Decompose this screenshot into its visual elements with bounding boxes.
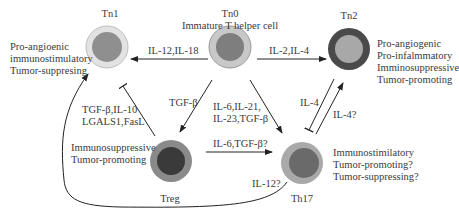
- tn2-label: Tn2: [334, 9, 364, 22]
- th17-label: Th17: [282, 192, 322, 205]
- tn1-trait: Tumor-suppresing: [10, 64, 87, 77]
- th17-trait: Tumor-suppressing?: [333, 170, 419, 183]
- tn0-subtitle: Immature T helper cell: [165, 19, 295, 32]
- edge-label-tn0-tn2: IL-2,IL-4: [269, 44, 309, 57]
- th17-cell-icon: [281, 142, 323, 184]
- edge-label-treg-th17: IL-6,TGF-β?: [213, 137, 268, 150]
- treg-label: Treg: [150, 192, 190, 205]
- edge-label-treg-tn1: LGALS1,FasL: [82, 115, 145, 128]
- treg-cell-icon: [150, 140, 192, 182]
- edge-label-tn0-treg: TGF-β: [169, 96, 198, 109]
- tn0-cell-icon: [209, 26, 251, 68]
- edge-label-tn0-tn1: IL-12,IL-18: [148, 44, 198, 57]
- edge-label-th17-tn1: IL-12?: [252, 177, 281, 190]
- tn2-cell-icon: [328, 28, 370, 70]
- edge-label-tn2-th17-inhibit: IL-4: [300, 96, 319, 109]
- tn1-label: Tn1: [95, 7, 125, 20]
- edge-label-th17-tn2: IL-4?: [333, 108, 356, 121]
- tn2-trait: Tumor-promoting: [377, 73, 452, 86]
- treg-trait: Tumor-promoting: [71, 153, 146, 166]
- edge-label-tn0-th17: IL-23,TGF-β: [213, 112, 268, 125]
